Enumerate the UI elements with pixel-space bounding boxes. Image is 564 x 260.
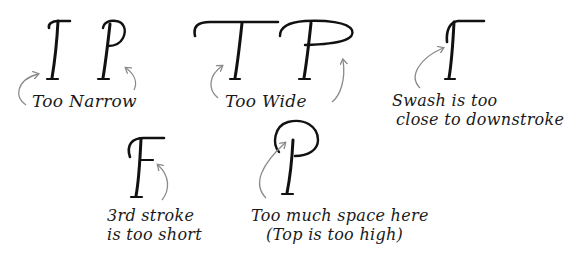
example-too-much-space [260,121,318,198]
arrow-icon [260,143,285,198]
caption-swash-line-1: Swash is too [392,91,498,110]
caption-too-wide: Too Wide [225,92,307,111]
letter-f-short [129,138,164,197]
caption-space-line-1: Too much space here [251,206,429,225]
caption-third-stroke-line-1: 3rd stroke [107,206,194,225]
letter-t-swash [445,21,484,79]
example-swash-close [415,21,484,88]
example-too-wide [195,21,353,102]
caption-too-narrow: Too Narrow [32,92,137,111]
letter-p-narrow [98,21,125,79]
example-third-stroke-short [129,138,168,200]
letter-p-space [275,121,318,194]
letter-t-narrow [47,21,70,79]
caption-space-line-2: (Top is too high) [266,225,403,244]
letter-p-wide [280,21,352,79]
arrow-icon [158,165,168,200]
caption-third-stroke-line-2: is too short [107,225,202,244]
arrow-icon [415,48,443,88]
caption-swash-line-2: close to downstroke [396,110,564,129]
arrow-icon [126,68,136,90]
arrow-icon [332,60,344,102]
letter-t-wide [195,22,278,79]
arrow-icon [211,66,222,98]
